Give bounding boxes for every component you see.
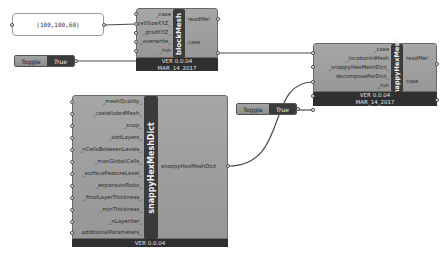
input-meshquality[interactable]: _meshQuality_ (103, 98, 142, 104)
output-readme[interactable]: readMe! (406, 55, 428, 61)
toggle-label: Toggle (15, 56, 47, 66)
grip[interactable] (226, 164, 230, 168)
grip[interactable] (435, 62, 439, 66)
snappyhexmeshdict-component[interactable]: snappyHexMeshDict _meshQuality_ _castell… (72, 95, 228, 247)
output-case[interactable]: case (406, 78, 418, 84)
date-label: MAR_14_2017 (136, 65, 218, 72)
toggle-label: Toggle (237, 104, 269, 114)
grip[interactable] (216, 51, 220, 55)
toggle-value[interactable]: True (47, 56, 74, 66)
grip[interactable] (134, 22, 138, 26)
input-minthickness[interactable]: _minThickness_ (100, 206, 142, 212)
input-decomposepardict[interactable]: decomposeParDict_ (336, 73, 389, 79)
grip[interactable] (311, 94, 315, 98)
grip[interactable] (70, 220, 74, 224)
input-overwrite[interactable]: _overwrite_ (140, 38, 171, 44)
boolean-toggle-1[interactable]: Toggle True (14, 55, 75, 67)
panel-input-grip[interactable] (10, 23, 14, 27)
wire-panel-to-cellsize (104, 24, 136, 25)
input-run[interactable]: _run (377, 82, 389, 88)
panel-value: (100,100,60) (36, 21, 79, 28)
input-ncellsbetweenlevels[interactable]: _nCellsBetweenLevels_ (80, 146, 142, 152)
grip[interactable] (70, 136, 74, 140)
grip[interactable] (134, 40, 138, 44)
coordinates-panel[interactable]: (100,100,60) (12, 13, 104, 36)
grip[interactable] (311, 108, 315, 112)
date-label: MAR_14_2017 (313, 99, 437, 106)
grip[interactable] (134, 31, 138, 35)
input-additionalparameters[interactable]: additionalParameters_ (82, 229, 142, 235)
grip[interactable] (70, 172, 74, 176)
output-case[interactable]: case (188, 39, 200, 45)
grip[interactable] (70, 148, 74, 152)
input-castellatedmesh[interactable]: _castellatedMesh_ (93, 110, 142, 116)
input-snappyhexmeshdict[interactable]: _snappyHexMeshDict_ (329, 64, 389, 70)
toggle-2-output-grip[interactable] (296, 107, 300, 111)
input-surfacefeaturelevel[interactable]: _surfaceFeatureLevel_ (82, 170, 142, 176)
output-snappyhexmeshdict[interactable]: snappyHexMeshDict (161, 163, 216, 169)
toggle-1-output-grip[interactable] (74, 59, 78, 63)
blockmesh-title-strip: blockMesh (173, 9, 185, 58)
wire-dict-to-snappy (228, 82, 313, 166)
input-gradxyz[interactable]: _gradXYZ_ (143, 29, 171, 35)
grip[interactable] (70, 184, 74, 188)
grip[interactable] (70, 124, 74, 128)
grip[interactable] (70, 196, 74, 200)
grip[interactable] (216, 17, 220, 21)
grip[interactable] (134, 49, 138, 53)
grip[interactable] (70, 100, 74, 104)
snappyhexmeshdict-footer: VER 0.0.04 (72, 239, 228, 247)
blockmesh-component[interactable]: blockMesh _case cellSizeXYZ_ _gradXYZ_ _… (136, 8, 218, 70)
snappyhexmesh-component[interactable]: snappyHexMesh _case _locationInMesh _sna… (313, 43, 437, 111)
input-maxglobalcells[interactable]: _maxGlobalCells_ (95, 158, 142, 164)
input-nlayeriter[interactable]: _nLayerIter_ (109, 218, 142, 224)
input-cellsizexyz[interactable]: cellSizeXYZ_ (137, 20, 171, 26)
snappyhexmesh-title-strip: snappyHexMesh (391, 44, 403, 92)
output-readme[interactable]: readMe! (188, 16, 210, 22)
snappyhexmesh-footer: VER 0.0.04 MAR_14_2017 (313, 92, 437, 106)
grip[interactable] (70, 208, 74, 212)
grip[interactable] (70, 231, 74, 235)
input-snap[interactable]: _snap_ (124, 122, 142, 128)
input-finallayerthickness[interactable]: _finalLayerThickness_ (83, 194, 142, 200)
version-label: VER 0.0.04 (72, 239, 228, 247)
grip[interactable] (70, 160, 74, 164)
snappyhexmeshdict-title-strip: snappyHexMeshDict (144, 96, 158, 239)
input-run[interactable]: _run (159, 47, 171, 53)
toggle-value[interactable]: True (269, 104, 296, 114)
panel-output-grip[interactable] (102, 23, 106, 27)
input-case[interactable]: _case (374, 46, 389, 52)
grip[interactable] (134, 12, 138, 16)
input-locationinmesh[interactable]: _locationInMesh (346, 55, 389, 61)
input-addlayers[interactable]: _addLayers_ (109, 134, 142, 140)
grip[interactable] (311, 65, 315, 69)
boolean-toggle-2[interactable]: Toggle True (236, 103, 297, 115)
input-expansionratio[interactable]: _expansionRatio_ (95, 182, 142, 188)
blockmesh-footer: VER 0.0.04 MAR_14_2017 (136, 58, 218, 71)
grip[interactable] (311, 51, 315, 55)
grip[interactable] (311, 80, 315, 84)
grip[interactable] (435, 98, 439, 102)
input-case[interactable]: _case (156, 11, 171, 17)
grip[interactable] (70, 112, 74, 116)
